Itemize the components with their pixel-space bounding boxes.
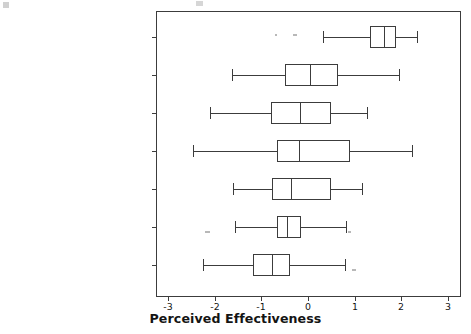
plot-frame-right	[460, 11, 461, 297]
whisker-high-cap	[367, 107, 368, 119]
whisker-high-line	[301, 227, 346, 228]
artifact-speck	[3, 2, 9, 8]
whisker-high-cap	[399, 69, 400, 81]
y-tick-mark	[152, 265, 156, 266]
y-tick-mark	[152, 151, 156, 152]
whisker-low-line	[193, 151, 277, 152]
iqr-box	[277, 140, 350, 162]
median-line	[310, 64, 311, 86]
whisker-high-cap	[346, 221, 347, 233]
median-line	[384, 26, 385, 48]
median-line	[300, 102, 301, 124]
y-tick-mark	[152, 189, 156, 190]
whisker-low-line	[233, 189, 273, 190]
plot-frame-top	[156, 11, 461, 12]
box-plot-figure: Western Europe/North AmericaLatin Americ…	[0, 0, 471, 334]
whisker-high-line	[350, 151, 412, 152]
whisker-low-line	[203, 265, 253, 266]
median-line	[272, 254, 273, 276]
iqr-box	[272, 178, 331, 200]
whisker-low-cap	[235, 221, 236, 233]
iqr-box	[277, 216, 301, 238]
y-tick-mark	[152, 113, 156, 114]
median-line	[291, 178, 292, 200]
whisker-low-cap	[233, 183, 234, 195]
artifact-speck	[196, 1, 203, 6]
whisker-low-line	[210, 113, 272, 114]
whisker-high-cap	[417, 31, 418, 43]
whisker-high-line	[396, 37, 417, 38]
whisker-low-cap	[232, 69, 233, 81]
x-axis-title: Perceived Effectiveness	[0, 311, 471, 326]
whisker-high-line	[338, 75, 400, 76]
iqr-box	[370, 26, 396, 48]
whisker-low-line	[232, 75, 286, 76]
y-tick-mark	[152, 75, 156, 76]
whisker-high-cap	[362, 183, 363, 195]
whisker-low-cap	[203, 259, 204, 271]
artifact-speck	[348, 231, 351, 233]
plot-frame-left	[156, 11, 157, 297]
whisker-high-cap	[412, 145, 413, 157]
whisker-high-line	[290, 265, 345, 266]
whisker-low-line	[323, 37, 371, 38]
whisker-high-cap	[345, 259, 346, 271]
whisker-high-line	[331, 113, 367, 114]
whisker-low-cap	[193, 145, 194, 157]
whisker-low-cap	[323, 31, 324, 43]
artifact-speck	[293, 34, 297, 36]
artifact-speck	[352, 269, 356, 271]
artifact-speck	[205, 231, 210, 233]
artifact-speck	[275, 34, 277, 36]
whisker-high-line	[331, 189, 362, 190]
median-line	[299, 140, 300, 162]
median-line	[287, 216, 288, 238]
y-tick-mark	[152, 227, 156, 228]
iqr-box	[285, 64, 338, 86]
y-tick-mark	[152, 37, 156, 38]
whisker-low-line	[235, 227, 277, 228]
whisker-low-cap	[210, 107, 211, 119]
